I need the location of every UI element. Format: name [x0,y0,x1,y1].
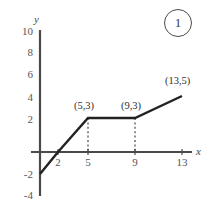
y-tick-label-minus-2: -2 [11,169,33,180]
y-tick-label-minus-4: -4 [11,190,33,201]
x-axis-label: x [196,146,201,157]
y-tick-label-6: 6 [11,69,33,80]
x-tick-label-5: 5 [78,157,98,168]
x-tick-label-9: 9 [125,157,145,168]
y-tick-label-2: 2 [11,114,33,125]
chart-figure: y x 10 8 6 4 2 -2 -4 2 5 9 13 (5,3) (9,3… [0,0,220,212]
y-tick-label-8: 8 [11,47,33,58]
point-label-5-3: (5,3) [74,101,94,112]
y-axis-label: y [34,14,39,25]
point-label-13-5: (13,5) [165,76,190,87]
problem-number-text: 1 [175,15,182,31]
x-tick-label-2: 2 [48,157,68,168]
y-tick-label-4: 4 [11,92,33,103]
problem-number-badge: 1 [164,9,192,37]
point-label-9-3: (9,3) [121,101,141,112]
x-tick-label-13: 13 [172,157,192,168]
y-tick-label-10: 10 [11,26,33,37]
